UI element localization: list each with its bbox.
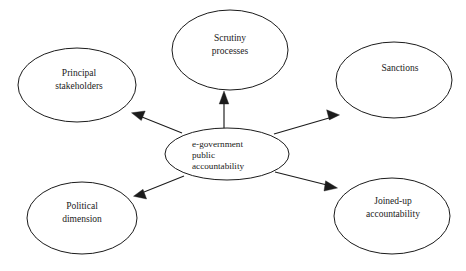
node-scrutiny-processes[interactable]: Scrutiny processes — [172, 10, 288, 90]
node-label-line2: processes — [212, 46, 249, 56]
edge-line — [142, 117, 182, 133]
node-center-e-government-public-accountability[interactable]: e-government public accountability — [165, 128, 289, 180]
node-joined-up-accountability[interactable]: Joined-up accountability — [334, 178, 450, 254]
edge-center-to-principal-stakeholders — [132, 111, 183, 133]
edge-center-to-joined-up-accountability — [275, 172, 338, 191]
node-label-line1: Joined-up — [374, 196, 412, 206]
node-label-line1: Scrutiny — [214, 33, 246, 43]
node-label-line2: stakeholders — [55, 81, 103, 91]
node-label-line3: accountability — [192, 161, 244, 171]
diagram-canvas: Scrutiny processes Principal stakeholder… — [0, 0, 466, 271]
node-political-dimension[interactable]: Political dimension — [27, 182, 137, 254]
edge-center-to-sanctions — [274, 110, 340, 134]
node-label-line1: Sanctions — [382, 63, 419, 73]
arrow-head-icon — [219, 91, 229, 104]
node-label-line1: e-government — [192, 139, 243, 149]
node-label-line2: dimension — [62, 214, 102, 224]
node-ellipse[interactable] — [165, 128, 289, 180]
arrow-head-icon — [134, 189, 147, 199]
node-label-line2: public — [192, 150, 215, 160]
node-ellipse[interactable] — [336, 42, 452, 118]
arrow-head-icon — [324, 181, 338, 191]
edge-center-to-political-dimension — [134, 176, 185, 199]
edge-line — [274, 118, 329, 134]
edge-line — [275, 172, 327, 185]
node-sanctions[interactable]: Sanctions — [336, 42, 452, 118]
edge-line — [144, 176, 184, 192]
edge-center-to-scrutiny — [219, 91, 229, 129]
diagram-svg: Scrutiny processes Principal stakeholder… — [0, 0, 466, 271]
node-principal-stakeholders[interactable]: Principal stakeholders — [18, 48, 136, 122]
node-label-line2: accountability — [366, 209, 420, 219]
node-label-line1: Political — [66, 201, 98, 211]
arrow-head-icon — [132, 111, 146, 121]
node-label-line1: Principal — [62, 68, 97, 78]
